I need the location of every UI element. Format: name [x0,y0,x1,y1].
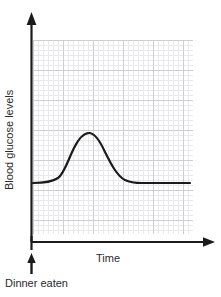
y-axis-label-text: Blood glucose levels [3,90,16,190]
right-arrow-axis-icon [203,237,215,247]
up-arrow-marker-icon [27,253,35,274]
event-annotation-label: Dinner eaten [5,277,68,290]
y-axis-label: Blood glucose levels [0,52,16,192]
x-axis-label: Time [96,252,120,265]
up-arrow-axis-icon [27,12,37,25]
blood-glucose-graph-figure: Blood glucose levels Time Dinner eaten [0,0,221,297]
glucose-curve [33,133,190,183]
